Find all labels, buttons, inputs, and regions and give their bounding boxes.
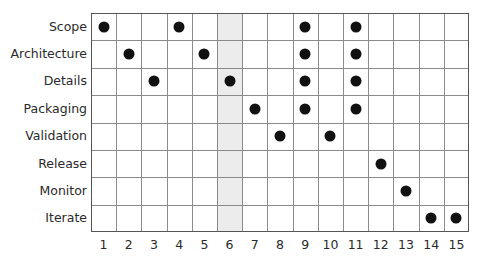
row-label: Iterate [45,211,87,225]
row-label: Packaging [24,102,87,116]
grid-line-horizontal [92,177,468,178]
data-point [123,49,134,60]
column-label: 2 [116,238,142,252]
column-label: 14 [418,238,444,252]
data-point [249,103,260,114]
grid-line-horizontal [92,40,468,41]
data-point [350,76,361,87]
column-label: 5 [191,238,217,252]
grid-line-horizontal [92,205,468,206]
data-point [199,49,210,60]
column-label: 12 [368,238,394,252]
data-point [350,103,361,114]
grid-line-horizontal [92,95,468,96]
data-point [224,76,235,87]
data-point [300,103,311,114]
data-point [350,49,361,60]
data-point [300,21,311,32]
column-label: 15 [443,238,469,252]
column-label: 11 [343,238,369,252]
column-label: 7 [242,238,268,252]
column-label: 10 [317,238,343,252]
chart-grid [91,13,469,232]
data-point [350,21,361,32]
row-label: Scope [49,20,87,34]
chart: ScopeArchitectureDetailsPackagingValidat… [0,0,488,268]
data-point [451,213,462,224]
data-point [275,131,286,142]
data-point [149,76,160,87]
data-point [300,49,311,60]
grid-line-horizontal [92,150,468,151]
row-label: Monitor [39,184,87,198]
grid-line-horizontal [92,68,468,69]
grid-line-horizontal [92,123,468,124]
column-label: 3 [141,238,167,252]
column-label: 6 [217,238,243,252]
data-point [375,158,386,169]
data-point [300,76,311,87]
data-point [174,21,185,32]
row-label: Validation [25,129,87,143]
data-point [401,185,412,196]
column-label: 1 [91,238,117,252]
row-label: Details [44,74,87,88]
column-label: 13 [393,238,419,252]
data-point [98,21,109,32]
column-label: 8 [267,238,293,252]
data-point [325,131,336,142]
column-label: 9 [292,238,318,252]
row-label: Release [38,157,87,171]
column-label: 4 [166,238,192,252]
row-label: Architecture [10,47,87,61]
data-point [426,213,437,224]
